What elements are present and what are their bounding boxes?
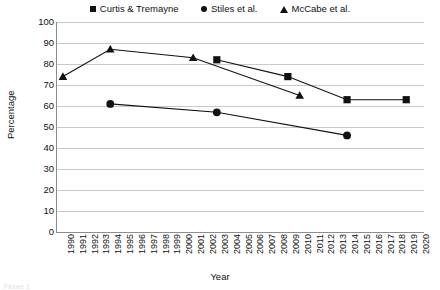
legend-item: Curtis & Tremayne: [90, 4, 179, 14]
square-data-point: [284, 73, 291, 80]
y-axis-tick-label: 60: [20, 101, 54, 111]
y-axis-tick-label: 50: [20, 122, 54, 132]
x-axis-tick-label: 1999: [173, 234, 182, 276]
x-axis-tick-label: 2018: [398, 234, 407, 276]
circle-data-point: [106, 100, 114, 108]
triangle-marker-icon: [280, 6, 288, 13]
x-axis-tick-label: 1998: [162, 234, 171, 276]
y-axis-tick-label: 90: [20, 38, 54, 48]
y-axis-title: Percentage: [6, 70, 16, 160]
y-axis-tick-label: 80: [20, 59, 54, 69]
x-axis-tick-label: 2017: [387, 234, 396, 276]
x-axis-tick-label: 2014: [351, 234, 360, 276]
x-axis-tick-label: 2007: [268, 234, 277, 276]
y-axis-tick-labels: 1009080706050403020100: [18, 0, 54, 290]
x-axis-tick-label: 2001: [197, 234, 206, 276]
circle-data-point: [343, 132, 351, 140]
triangle-data-point: [59, 72, 68, 80]
y-axis-tick-label: 30: [20, 164, 54, 174]
y-axis-tick-label: 100: [20, 17, 54, 27]
chart-legend: Curtis & TremayneStiles et al.McCabe et …: [0, 2, 440, 16]
square-data-point: [213, 56, 220, 63]
x-axis-tick-label: 2004: [233, 234, 242, 276]
series-line: [110, 104, 347, 135]
y-axis-tick-label: 20: [20, 185, 54, 195]
x-axis-tick-label: 2008: [280, 234, 289, 276]
square-data-point: [343, 96, 350, 103]
chart-figure: Curtis & TremayneStiles et al.McCabe et …: [0, 0, 440, 290]
y-axis-tick-label: 0: [20, 227, 54, 237]
x-axis-tick-label: 1992: [91, 234, 100, 276]
data-series-layer: [57, 22, 424, 232]
gridline: [57, 232, 424, 233]
x-axis-tick-label: 1990: [67, 234, 76, 276]
x-axis-tick-label: 2013: [339, 234, 348, 276]
x-axis-tick-label: 1995: [126, 234, 135, 276]
plot-area: [57, 22, 424, 232]
x-axis-tick-label: 2012: [327, 234, 336, 276]
legend-item: Stiles et al.: [201, 4, 258, 14]
legend-item: McCabe et al.: [280, 4, 351, 14]
x-axis-tick-labels: 1990199119921993199419951996199719981999…: [57, 234, 424, 276]
square-marker-icon: [90, 6, 96, 12]
legend-item-label: Stiles et al.: [211, 4, 257, 14]
x-axis-tick-label: 1996: [138, 234, 147, 276]
y-axis-tick-label: 70: [20, 80, 54, 90]
legend-item-label: McCabe et al.: [292, 4, 351, 14]
x-axis-tick-label: 2006: [256, 234, 265, 276]
square-data-point: [403, 96, 410, 103]
x-axis-tick-label: 2015: [363, 234, 372, 276]
x-axis-tick-label: 2003: [221, 234, 230, 276]
x-axis-tick-label: 1993: [102, 234, 111, 276]
y-axis-tick-label: 10: [20, 206, 54, 216]
x-axis-tick-label: 2020: [422, 234, 431, 276]
circle-data-point: [213, 108, 221, 116]
x-axis-tick-label: 2019: [410, 234, 419, 276]
x-axis-tick-label: 2002: [209, 234, 218, 276]
x-axis-tick-label: 1991: [79, 234, 88, 276]
triangle-data-point: [106, 45, 115, 53]
x-axis-tick-label: 2016: [375, 234, 384, 276]
circle-marker-icon: [201, 6, 208, 13]
x-axis-tick-label: 2005: [245, 234, 254, 276]
x-axis-tick-label: 2000: [185, 234, 194, 276]
figure-caption: Figure 1: [4, 283, 124, 289]
x-axis-tick-label: 2011: [316, 234, 325, 276]
series-line: [217, 60, 406, 100]
y-axis-tick-label: 40: [20, 143, 54, 153]
x-axis-tick-label: 1997: [150, 234, 159, 276]
legend-item-label: Curtis & Tremayne: [100, 4, 179, 14]
x-axis-tick-label: 1994: [114, 234, 123, 276]
x-axis-tick-label: 2010: [304, 234, 313, 276]
x-axis-title: Year: [0, 272, 440, 282]
series-line: [63, 49, 300, 95]
x-axis-tick-label: 2009: [292, 234, 301, 276]
